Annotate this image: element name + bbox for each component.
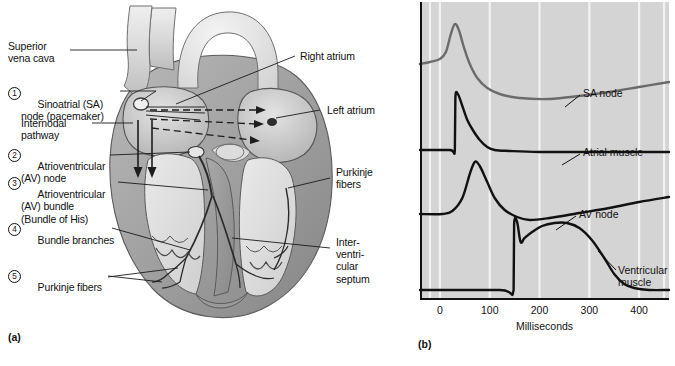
chart-trace-group (420, 24, 669, 295)
label-bundle-branches: 4Bundle branches (8, 222, 114, 259)
x-tick-label: 300 (581, 304, 599, 316)
x-tick-label: 0 (437, 304, 443, 316)
label-av-bundle-text: Atrioventricular (AV) bundle (Bundle of … (21, 188, 105, 224)
trace-av-node (420, 162, 669, 220)
trace-atrial-muscle (420, 92, 669, 154)
label-purkinje-fibers-right: Purkinje fibers (336, 166, 373, 190)
label-superior-vena-cava: Superior vena cava (8, 40, 55, 64)
sa-node-marker (134, 98, 149, 110)
trace-sa-node (420, 24, 669, 99)
x-tick-label: 200 (531, 304, 549, 316)
callout-number-1: 1 (8, 87, 21, 100)
gridline (489, 2, 491, 300)
callout-number-2: 2 (8, 149, 21, 162)
label-purkinje-fibers-left: 5Purkinje fibers (8, 269, 102, 306)
callout-number-3: 3 (8, 177, 21, 190)
label-left-atrium: Left atrium (327, 104, 375, 116)
chart-y-axis (420, 2, 422, 300)
label-internodal-pathway: Internodal pathway (21, 117, 66, 141)
annotation-sa-node: SA node (583, 87, 623, 99)
panel-a-tag: (a) (8, 331, 21, 343)
chart-x-axis (420, 298, 669, 300)
panel-a-heart-diagram: Superior vena cava 1Sinoatrial (SA) node… (0, 0, 418, 366)
label-purkinje-fibers-left-text: Purkinje fibers (38, 281, 102, 293)
label-interventricular-septum: Inter- ventri- cular septum (336, 236, 370, 285)
callout-number-4: 4 (8, 223, 21, 236)
annotation-atrial-muscle: Atrial muscle (583, 146, 643, 158)
annotation-ventricular-muscle: Ventricular muscle (618, 264, 668, 288)
x-tick-label: 400 (630, 304, 648, 316)
panel-b-tag: (b) (418, 338, 431, 350)
callout-number-5: 5 (8, 270, 21, 283)
x-tick-label: 100 (481, 304, 499, 316)
label-bundle-branches-text: Bundle branches (38, 234, 115, 246)
label-right-atrium: Right atrium (300, 50, 355, 62)
annotation-av-node: AV node (579, 208, 619, 220)
figure-cardiac-conduction: Superior vena cava 1Sinoatrial (SA) node… (0, 0, 675, 366)
av-node-marker (188, 147, 204, 158)
chart-x-axis-label: Milliseconds (420, 320, 669, 332)
chart-annotation-leaders (556, 95, 616, 270)
panel-b-action-potential-chart: SA node Atrial muscle AV node Ventricula… (420, 2, 669, 310)
